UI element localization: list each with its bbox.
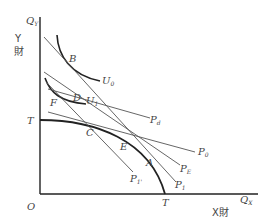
origin-label: O <box>27 201 35 212</box>
point-d-label: D <box>72 92 81 103</box>
x-good-label: X財 <box>212 206 229 218</box>
pe-label: PE <box>179 163 192 175</box>
p0-label: P0 <box>197 146 209 158</box>
pd-label: Pd <box>149 114 161 126</box>
trade-diagram: QY Y 財 O QX X財 T T U0 U1 B D F C E A Pd … <box>0 0 272 224</box>
u1-label: U1 <box>86 95 98 107</box>
y-good-label-2: 財 <box>14 45 24 57</box>
u0-label: U0 <box>102 75 114 87</box>
ppf-label-y: T <box>27 115 35 126</box>
price-line-b <box>44 37 176 182</box>
point-a-label: A <box>145 157 153 168</box>
y-good-label-1: Y <box>14 33 22 44</box>
point-f-label: F <box>49 97 58 108</box>
price-line-pd <box>48 89 150 118</box>
x-axis-label: QX <box>240 194 253 206</box>
point-b-label: B <box>68 53 76 64</box>
point-c-label: C <box>86 127 94 138</box>
point-e-label: E <box>119 141 128 152</box>
ppf-label-x: T <box>162 197 170 208</box>
y-axis-label: QY <box>26 15 39 27</box>
p1prime-label: P1' <box>129 173 143 185</box>
p1-label: P1 <box>174 179 186 191</box>
